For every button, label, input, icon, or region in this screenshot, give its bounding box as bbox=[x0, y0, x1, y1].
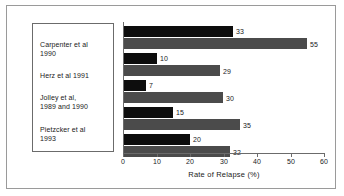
bar-black-2 bbox=[123, 53, 157, 64]
bar-gray-2 bbox=[123, 65, 220, 76]
chart-figure-frame: Carpenter et al 1990 Herz et al 1991 Jol… bbox=[6, 5, 336, 189]
bar-value-gray-2: 29 bbox=[223, 68, 231, 75]
x-tick-40 bbox=[257, 154, 258, 157]
bar-black-4 bbox=[123, 107, 173, 118]
x-tick-label-40: 40 bbox=[247, 158, 267, 166]
bar-value-gray-1: 55 bbox=[310, 41, 318, 48]
x-axis-line bbox=[123, 153, 325, 154]
x-axis-title: Rate of Relapse (%) bbox=[123, 170, 325, 179]
study-label-carpenter: Carpenter et al 1990 bbox=[40, 40, 114, 58]
study-label-line1: Herz et al 1991 bbox=[40, 71, 114, 80]
x-tick-60 bbox=[324, 154, 325, 157]
x-tick-label-60: 60 bbox=[314, 158, 334, 166]
bar-gray-5 bbox=[123, 146, 230, 157]
study-label-line1: Pietzcker et al bbox=[40, 125, 114, 134]
study-label-line2: 1990 bbox=[40, 49, 114, 58]
x-tick-label-20: 20 bbox=[180, 158, 200, 166]
bar-value-black-5: 20 bbox=[193, 136, 201, 143]
bar-black-5 bbox=[123, 134, 190, 145]
x-tick-label-10: 10 bbox=[147, 158, 167, 166]
bar-value-black-4: 15 bbox=[176, 109, 184, 116]
bar-black-3 bbox=[123, 80, 146, 91]
x-tick-50 bbox=[291, 154, 292, 157]
x-tick-20 bbox=[190, 154, 191, 157]
study-label-box: Carpenter et al 1990 Herz et al 1991 Jol… bbox=[32, 23, 114, 152]
bar-gray-4 bbox=[123, 119, 240, 130]
bar-gray-3 bbox=[123, 92, 223, 103]
study-label-jolley: Jolley et al, 1989 and 1990 bbox=[40, 93, 114, 111]
bar-value-black-3: 7 bbox=[149, 82, 153, 89]
x-tick-10 bbox=[157, 154, 158, 157]
bar-value-black-1: 33 bbox=[236, 28, 244, 35]
bar-black-1 bbox=[123, 26, 233, 37]
study-label-line1: Jolley et al, bbox=[40, 93, 114, 102]
study-label-pietzcker: Pietzcker et al 1993 bbox=[40, 125, 114, 143]
x-tick-0 bbox=[123, 154, 124, 157]
bar-value-gray-4: 35 bbox=[243, 122, 251, 129]
bar-gray-1 bbox=[123, 38, 307, 49]
x-tick-label-0: 0 bbox=[113, 158, 133, 166]
study-label-herz: Herz et al 1991 bbox=[40, 71, 114, 80]
study-label-line1: Carpenter et al bbox=[40, 40, 114, 49]
study-label-line2: 1993 bbox=[40, 134, 114, 143]
bar-value-gray-3: 30 bbox=[226, 95, 234, 102]
x-tick-label-50: 50 bbox=[281, 158, 301, 166]
bar-value-black-2: 10 bbox=[160, 55, 168, 62]
study-label-line2: 1989 and 1990 bbox=[40, 102, 114, 111]
x-tick-label-30: 30 bbox=[214, 158, 234, 166]
x-tick-30 bbox=[224, 154, 225, 157]
y-axis-line bbox=[123, 22, 124, 153]
plot-area: 33 55 10 29 7 30 15 35 20 32 bbox=[123, 22, 324, 153]
